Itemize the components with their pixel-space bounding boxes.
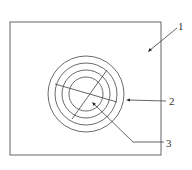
- patent-figure: 123: [0, 0, 192, 170]
- callout-2: [126, 98, 166, 101]
- concentric-rings: [48, 56, 124, 132]
- leader-line: [128, 100, 166, 101]
- reference-labels: 123: [166, 20, 184, 149]
- callout-1: [148, 28, 177, 52]
- leader-line: [93, 103, 164, 142]
- leader-line: [149, 28, 177, 51]
- leader-lines: [92, 28, 177, 142]
- frame-plate: [10, 22, 161, 155]
- diagram-canvas: 123: [0, 0, 192, 170]
- arrowhead-icon: [126, 98, 130, 101]
- callout-3: [92, 102, 164, 142]
- ring-1: [48, 56, 124, 132]
- label-3: 3: [166, 137, 172, 149]
- ring-2: [55, 63, 117, 125]
- label-1: 1: [178, 20, 184, 32]
- label-2: 2: [169, 95, 175, 107]
